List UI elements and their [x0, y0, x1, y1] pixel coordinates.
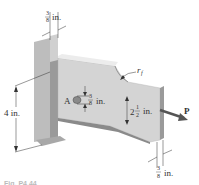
bar-width-whole: 2	[130, 107, 135, 117]
height-arrow-bottom	[14, 146, 18, 152]
bar-thickness-den: 8	[157, 173, 160, 179]
plate-right-edge	[160, 86, 164, 140]
dim-bar-thickness	[148, 140, 172, 168]
column-front-face	[34, 38, 50, 142]
column-flange	[50, 34, 58, 62]
bar-width-num: 1	[136, 104, 139, 110]
hole-dia-num: 3	[89, 93, 92, 99]
bar-thickness-unit: in.	[164, 168, 173, 178]
bar-width-unit: in.	[143, 106, 152, 116]
height-label: 4 in.	[4, 108, 20, 118]
bar-width-den: 2	[136, 112, 139, 118]
top-thickness-den: 8	[46, 17, 49, 23]
hole-dia-den: 8	[89, 100, 92, 106]
support-column	[34, 34, 58, 142]
top-thickness-unit: in.	[52, 12, 61, 22]
hole-a	[73, 97, 81, 104]
top-thickness-num: 3	[46, 10, 49, 16]
height-arrow-top	[14, 86, 18, 92]
point-a-label: A	[64, 96, 71, 106]
fillet-sub: f	[141, 70, 144, 76]
figure-caption: Fig. P4.44	[4, 180, 37, 185]
load-label: P	[184, 106, 190, 116]
bar-thickness-num: 3	[157, 165, 160, 171]
bracket-diagram: 3 8 in. 4 in. A 3 8 in. r f 2 1 2 in. P	[0, 0, 199, 185]
hole-dia-unit: in.	[96, 96, 105, 106]
